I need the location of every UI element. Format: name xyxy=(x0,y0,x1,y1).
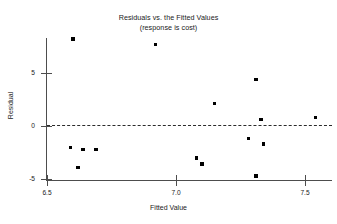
y-tick-mark xyxy=(41,73,52,74)
data-point xyxy=(71,37,74,40)
data-point xyxy=(94,148,97,151)
data-point xyxy=(154,43,157,46)
data-point xyxy=(259,118,262,121)
y-axis-label: Residual xyxy=(7,76,14,136)
data-point xyxy=(76,166,79,169)
x-tick-label: 7.5 xyxy=(285,189,325,196)
y-tick-label: 5 xyxy=(13,69,35,76)
zero-reference-line xyxy=(47,125,332,126)
x-axis-line xyxy=(46,180,332,181)
x-axis-label: Fitted Value xyxy=(0,204,337,211)
x-tick-mark xyxy=(176,175,177,186)
data-point xyxy=(69,146,72,149)
x-tick-label: 6.5 xyxy=(27,189,67,196)
data-point xyxy=(254,78,257,81)
y-tick-label: 0 xyxy=(13,122,35,129)
data-point xyxy=(254,174,257,177)
data-point xyxy=(81,148,84,151)
data-point xyxy=(262,142,265,145)
data-point xyxy=(314,116,317,119)
x-tick-mark xyxy=(305,175,306,186)
residual-plot: Residuals vs. the Fitted Values (respons… xyxy=(0,0,337,224)
x-tick-mark xyxy=(47,175,48,186)
data-point xyxy=(195,156,198,159)
y-tick-label: -5 xyxy=(13,175,35,182)
plot-area: 50-56.57.07.5 xyxy=(0,0,337,224)
x-tick-label: 7.0 xyxy=(156,189,196,196)
y-axis-line xyxy=(46,38,47,181)
data-point xyxy=(213,102,216,105)
data-point xyxy=(247,137,250,140)
y-tick-mark xyxy=(41,126,52,127)
data-point xyxy=(200,162,203,165)
